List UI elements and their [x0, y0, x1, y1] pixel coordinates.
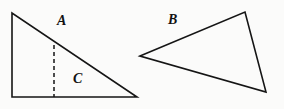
- label-c: C: [73, 72, 82, 86]
- label-b: B: [168, 13, 177, 27]
- figure-canvas: [0, 0, 284, 109]
- geometry-figure: A C B: [0, 0, 284, 109]
- label-a: A: [57, 14, 66, 28]
